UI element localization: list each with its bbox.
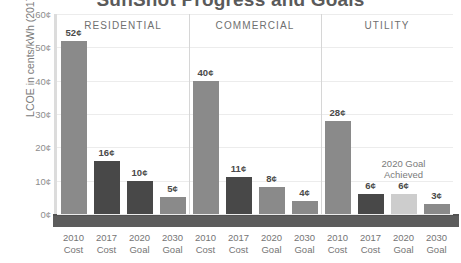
y-axis-tick-label: 60¢ [35, 9, 51, 20]
y-axis-tick-label: 20¢ [35, 142, 51, 153]
y-axis-title: LCOE in cents/kWh (2017 $)* [24, 0, 36, 136]
bar-value-label: 28¢ [330, 107, 346, 118]
baseline-slab [53, 214, 459, 227]
bar[interactable]: 52¢ [61, 41, 87, 214]
y-axis-tick-label: 50¢ [35, 42, 51, 53]
bar-value-label: 11¢ [231, 163, 246, 174]
panel-title-commercial: COMMERCIAL [216, 20, 295, 31]
x-axis-tick-label: 2017Cost [228, 232, 249, 255]
bar-value-label: 4¢ [299, 187, 310, 198]
bar-value-label: 6¢ [398, 180, 409, 191]
x-axis-tick-label: 2020Goal [261, 232, 282, 255]
bar[interactable]: 8¢ [259, 187, 285, 214]
x-axis-tick-label: 2020Goal [129, 232, 150, 255]
x-axis-tick-label: 2017Cost [360, 232, 381, 255]
x-axis-tick-label: 2010Cost [327, 232, 348, 255]
x-axis-tick-label: 2030Goal [162, 232, 183, 255]
bar[interactable]: 40¢ [193, 81, 219, 214]
bar-value-label: 52¢ [66, 27, 82, 38]
panel-divider [321, 14, 322, 214]
chart-title: SunShot Progress and Goals [0, 0, 461, 11]
bar-value-label: 40¢ [198, 67, 214, 78]
x-axis-tick-label: 2030Goal [426, 232, 447, 255]
bar[interactable]: 6¢ [358, 194, 384, 214]
x-axis-tick-label: 2030Goal [294, 232, 315, 255]
bar[interactable]: 3¢ [424, 204, 450, 214]
gridline [57, 214, 453, 215]
y-axis-tick-label: 0¢ [40, 209, 51, 220]
y-axis-tick-label: 30¢ [35, 109, 51, 120]
bar-value-label: 3¢ [431, 190, 442, 201]
gridline [57, 47, 453, 48]
x-axis-tick-label: 2017Cost [96, 232, 117, 255]
gridline [57, 114, 453, 115]
bar-value-label: 10¢ [132, 167, 148, 178]
gridline [57, 147, 453, 148]
x-axis-tick-label: 2010Cost [195, 232, 216, 255]
bar[interactable]: 4¢ [292, 201, 318, 214]
plot-area: 0¢10¢20¢30¢40¢50¢60¢RESIDENTIAL52¢2010Co… [57, 14, 453, 214]
bar[interactable]: 28¢ [325, 121, 351, 214]
bar-value-label: 8¢ [266, 173, 277, 184]
panel-title-residential: RESIDENTIAL [84, 20, 162, 31]
bar[interactable]: 11¢ [226, 177, 252, 214]
chart-root: SunShot Progress and Goals LCOE in cents… [0, 0, 461, 263]
bar-value-label: 5¢ [167, 183, 178, 194]
bar[interactable]: 5¢ [160, 197, 186, 214]
bar[interactable]: 6¢ [391, 194, 417, 214]
y-axis-tick-label: 10¢ [35, 175, 51, 186]
x-axis-tick-label: 2020Goal [393, 232, 414, 255]
bar[interactable]: 16¢ [94, 161, 120, 214]
bar[interactable]: 10¢ [127, 181, 153, 214]
x-axis-tick-label: 2010Cost [63, 232, 84, 255]
goal-achieved-annotation: 2020 GoalAchieved [382, 158, 426, 180]
panel-divider [189, 14, 190, 214]
y-axis-tick-label: 40¢ [35, 75, 51, 86]
bar-value-label: 6¢ [365, 180, 376, 191]
bar-value-label: 16¢ [99, 147, 115, 158]
gridline [57, 14, 453, 15]
panel-title-utility: UTILITY [365, 20, 410, 31]
gridline [57, 81, 453, 82]
